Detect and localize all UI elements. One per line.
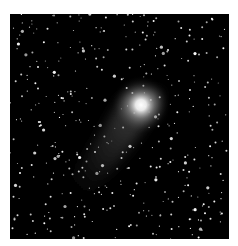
comet-photo xyxy=(10,14,229,239)
comet-coma xyxy=(111,75,171,135)
star-field xyxy=(10,14,229,239)
